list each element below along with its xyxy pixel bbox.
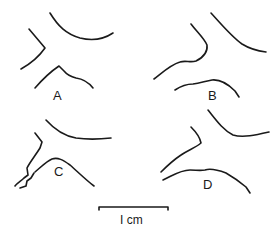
panel-c: C [15,120,111,188]
panel-b-lower-contour [175,80,239,97]
figure-canvas: A B C D I cm [0,0,279,235]
panel-a: A [21,13,113,103]
scale-bar-line [99,207,168,210]
panel-c-left-contour [15,133,42,186]
scale-bar: I cm [99,207,168,227]
panel-a-upper-contour [50,13,113,39]
scale-bar-label: I cm [120,213,143,227]
panel-b: B [154,13,266,103]
panel-a-label: A [53,88,62,103]
panel-b-label: B [208,88,217,103]
panel-d-label: D [203,177,212,192]
panel-c-lower-contour [35,158,94,186]
panel-b-left-contour [154,24,207,79]
panel-d: D [161,110,269,193]
panel-a-left-contour [21,29,45,69]
panel-b-upper-contour [211,13,266,52]
panel-c-label: C [54,164,63,179]
panel-c-upper-contour [46,120,111,139]
panel-d-left-contour [161,127,201,172]
panel-a-lower-contour [35,66,93,88]
panel-d-upper-contour [208,110,269,136]
